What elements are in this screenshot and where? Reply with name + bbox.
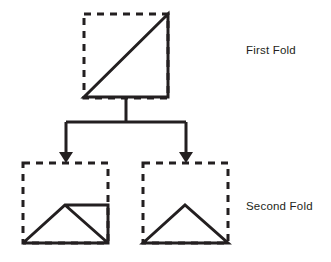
connector-trunk: [66, 97, 186, 153]
paper-folding-diagram: First Fold Second Fold: [0, 0, 331, 262]
arrow-to-right-node-icon: [179, 152, 193, 163]
second-fold-left-shape: [23, 205, 108, 243]
second-fold-right-triangle: [143, 205, 228, 243]
second-fold-left-node: [23, 163, 108, 243]
arrow-to-left-node-icon: [59, 152, 73, 163]
first-fold-triangle: [84, 14, 168, 97]
connector-group: [59, 97, 193, 163]
first-fold-node: [84, 14, 168, 98]
first-fold-label: First Fold: [246, 44, 296, 56]
diagram-canvas: First Fold Second Fold: [0, 0, 331, 262]
second-fold-right-node: [143, 163, 228, 243]
second-fold-label: Second Fold: [246, 200, 313, 212]
